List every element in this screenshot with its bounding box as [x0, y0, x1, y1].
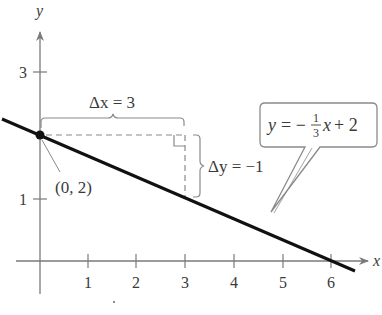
x-tick-label: 6 [327, 274, 335, 291]
x-tick-label: 4 [230, 274, 238, 291]
x-tick-label: 5 [279, 274, 287, 291]
equation-rhs: x + 2 [322, 115, 358, 135]
equation-fraction-denominator: 3 [313, 126, 319, 140]
rise-brace [193, 135, 204, 197]
point-leader [42, 140, 60, 172]
rise-label: Δy = −1 [208, 157, 264, 176]
x-tick-label: 2 [132, 274, 140, 291]
y-tick-label: 3 [19, 64, 27, 81]
y-tick-label: 1 [19, 191, 27, 208]
x-axis-label: x [372, 252, 380, 269]
x-tick-label: 3 [181, 274, 189, 291]
run-brace [41, 114, 184, 128]
equation-text: y = − [266, 115, 306, 135]
x-tick-label: 1 [84, 274, 92, 291]
stray-mark [113, 301, 115, 303]
equation-fraction-numerator: 1 [313, 111, 319, 125]
run-label: Δx = 3 [89, 93, 135, 112]
graph-canvas: 1 2 3 4 5 6 1 3 x y Δx = 3 Δy = −1 (0, 2… [0, 0, 382, 315]
intercept-point [36, 131, 45, 140]
y-axis-label: y [34, 2, 44, 20]
point-label: (0, 2) [55, 178, 92, 197]
